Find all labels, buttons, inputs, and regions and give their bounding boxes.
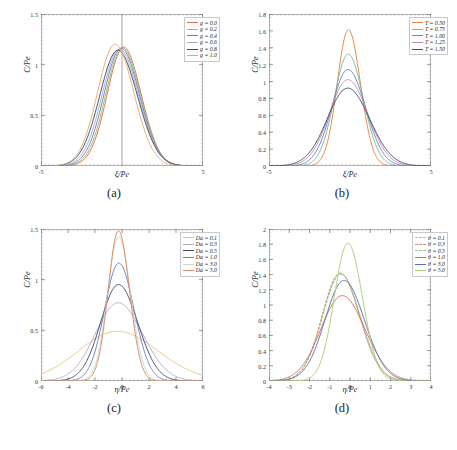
plot-area-d [269, 229, 431, 381]
legend-a: g = 0.0g = 0.2g = 0.4g = 0.6g = 0.8g = 1… [184, 17, 220, 62]
panel-caption-b: (b) [228, 186, 456, 201]
curve-da-0-3 [41, 303, 203, 381]
legend-label: θ = 0.3 [428, 241, 445, 248]
legend-swatch-icon [183, 257, 194, 258]
curve-da-3-0 [41, 237, 203, 381]
y-tick-label: 1.8 [234, 241, 266, 248]
y-tick-label: 0.6 [234, 332, 266, 339]
legend-swatch-icon [415, 264, 426, 265]
panel-caption-c: (c) [0, 401, 228, 416]
legend-label: T = 0.75 [425, 26, 445, 33]
legend-item[interactable]: θ = 3.0 [415, 261, 445, 268]
legend-swatch-icon [183, 244, 194, 245]
y-tick-label: 1.5 [6, 226, 38, 233]
legend-item[interactable]: Da = 1.0 [183, 254, 217, 261]
legend-item[interactable]: Da = 0.1 [183, 235, 217, 242]
legend-swatch-icon [412, 35, 423, 36]
legend-item[interactable]: Da = 0.3 [183, 241, 217, 248]
curve-da-0-5 [41, 284, 203, 381]
legend-item[interactable]: T = 1.00 [412, 33, 445, 40]
legend-label: θ = 0.1 [428, 235, 445, 242]
curve--1-0 [269, 296, 431, 381]
legend-swatch-icon [183, 250, 194, 251]
curve-t-1-50 [269, 88, 431, 166]
y-tick-label: 0.4 [234, 129, 266, 136]
legend-label: g = 0.2 [200, 26, 217, 33]
legend-b: T = 0.50T = 0.75T = 1.00T = 1.25T = 1.50 [409, 17, 448, 55]
legend-item[interactable]: θ = 1.0 [415, 254, 445, 261]
legend-item[interactable]: θ = 5.0 [415, 267, 445, 274]
curve-t-0-50 [269, 30, 431, 166]
legend-item[interactable]: θ = 0.5 [415, 248, 445, 255]
legend-label: g = 1.0 [200, 52, 217, 59]
y-tick-label: 0.4 [234, 347, 266, 354]
y-tick-label: 1.6 [234, 27, 266, 34]
panel-a: 00.511.5-55ξ/PeC/Pe(a)g = 0.0g = 0.2g = … [0, 0, 228, 215]
legend-item[interactable]: g = 0.0 [187, 20, 217, 27]
legend-item[interactable]: T = 1.25 [412, 39, 445, 46]
legend-item[interactable]: T = 0.75 [412, 26, 445, 33]
legend-item[interactable]: g = 0.6 [187, 39, 217, 46]
legend-label: T = 1.00 [425, 33, 445, 40]
legend-label: g = 0.0 [200, 20, 217, 27]
legend-item[interactable]: θ = 0.3 [415, 241, 445, 248]
legend-swatch-icon [415, 250, 426, 251]
legend-item[interactable]: Da = 0.5 [183, 248, 217, 255]
legend-label: T = 0.50 [425, 20, 445, 27]
legend-label: θ = 1.0 [428, 254, 445, 261]
y-tick-label: 1.5 [6, 11, 38, 18]
y-tick-label: 0.8 [234, 95, 266, 102]
panel-d: 00.20.40.60.811.21.41.61.82-4-3-2-101234… [228, 215, 456, 430]
curve-t-1-25 [269, 80, 431, 166]
curve-da-5-0 [41, 231, 203, 381]
curve-t-0-75 [269, 54, 431, 166]
y-axis-label: C/Pe [23, 35, 32, 95]
legend-swatch-icon [187, 35, 198, 36]
y-tick-label: 0.2 [234, 146, 266, 153]
legend-item[interactable]: Da = 5.0 [183, 267, 217, 274]
legend-swatch-icon [415, 270, 426, 271]
curve-da-1-0 [41, 263, 203, 381]
legend-item[interactable]: g = 0.8 [187, 46, 217, 53]
x-axis-label: ξ/Pe [269, 170, 431, 179]
legend-swatch-icon [187, 29, 198, 30]
legend-d: θ = 0.1θ = 0.3θ = 0.5θ = 1.0θ = 3.0θ = 5… [412, 232, 448, 277]
legend-item[interactable]: g = 0.4 [187, 33, 217, 40]
panel-c: 00.511.5-6-4-20246η/PeC/Pe(c)Da = 0.1Da … [0, 215, 228, 430]
y-tick-label: 0 [234, 378, 266, 385]
legend-swatch-icon [187, 22, 198, 23]
curve--0-3 [269, 274, 431, 381]
legend-label: Da = 3.0 [196, 261, 217, 268]
legend-item[interactable]: T = 0.50 [412, 20, 445, 27]
legend-swatch-icon [415, 244, 426, 245]
legend-swatch-icon [415, 257, 426, 258]
legend-item[interactable]: T = 1.50 [412, 46, 445, 53]
legend-item[interactable]: Da = 3.0 [183, 261, 217, 268]
curve--3-0 [269, 280, 431, 381]
legend-item[interactable]: θ = 0.1 [415, 235, 445, 242]
legend-label: θ = 5.0 [428, 267, 445, 274]
legend-label: T = 1.25 [425, 39, 445, 46]
legend-swatch-icon [187, 42, 198, 43]
legend-label: Da = 0.5 [196, 248, 217, 255]
legend-swatch-icon [183, 270, 194, 271]
legend-label: g = 0.6 [200, 39, 217, 46]
y-tick-label: 0 [234, 163, 266, 170]
y-axis-label: C/Pe [251, 35, 260, 95]
curve--0-5 [269, 274, 431, 381]
panel-caption-d: (d) [228, 401, 456, 416]
curve--0-1 [269, 273, 431, 381]
legend-label: T = 1.50 [425, 46, 445, 53]
y-tick-label: 0 [6, 378, 38, 385]
x-axis-label: η/Pe [41, 385, 203, 394]
curve-t-1-00 [269, 69, 431, 166]
legend-swatch-icon [412, 49, 423, 50]
legend-swatch-icon [415, 237, 426, 238]
figure-multi-panel: 00.511.5-55ξ/PeC/Pe(a)g = 0.0g = 0.2g = … [0, 0, 457, 450]
legend-item[interactable]: g = 1.0 [187, 52, 217, 59]
y-tick-label: 2 [234, 226, 266, 233]
legend-label: Da = 5.0 [196, 267, 217, 274]
legend-item[interactable]: g = 0.2 [187, 26, 217, 33]
legend-label: g = 0.4 [200, 33, 217, 40]
curve-da-0-1 [41, 331, 203, 375]
